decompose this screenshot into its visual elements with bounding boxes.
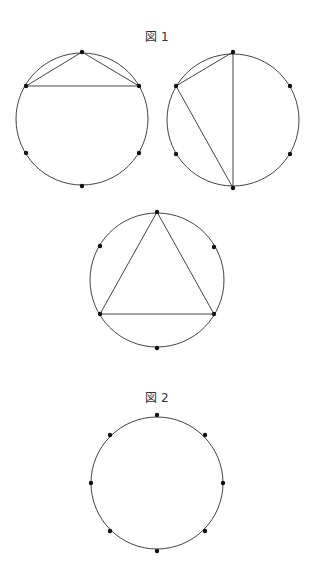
point-dot — [203, 433, 207, 437]
point-dot — [212, 245, 216, 249]
figure-1-label: 図 1 — [145, 30, 168, 44]
point-dot — [231, 50, 235, 54]
point-dot — [288, 152, 292, 156]
fig2-circle — [89, 413, 225, 553]
point-dot — [80, 50, 84, 54]
figure-2-label: 図 2 — [145, 391, 168, 405]
fig1-circle-b — [167, 50, 299, 190]
point-dot — [174, 84, 178, 88]
chord-line — [157, 212, 214, 314]
point-dot — [108, 529, 112, 533]
point-dot — [24, 84, 28, 88]
diagram-canvas: 図 1 図 2 — [0, 0, 311, 587]
chord-line — [82, 52, 139, 86]
point-dot — [98, 312, 102, 316]
fig1-circle-a — [16, 50, 148, 188]
figure-1 — [16, 50, 299, 350]
point-dot — [89, 481, 93, 485]
point-dot — [203, 529, 207, 533]
point-dot — [212, 312, 216, 316]
point-dot — [155, 549, 159, 553]
point-dot — [231, 186, 235, 190]
point-dot — [24, 151, 28, 155]
circle-outline — [90, 213, 224, 347]
point-dot — [137, 151, 141, 155]
point-dot — [80, 184, 84, 188]
chord-line — [100, 212, 157, 314]
point-dot — [98, 244, 102, 248]
chord-line — [176, 52, 233, 86]
point-dot — [108, 433, 112, 437]
point-dot — [155, 413, 159, 417]
point-dot — [155, 346, 159, 350]
point-dot — [288, 84, 292, 88]
fig1-circle-c — [90, 210, 224, 350]
point-dot — [174, 152, 178, 156]
figure-2 — [89, 413, 225, 553]
point-dot — [155, 210, 159, 214]
chord-line — [26, 52, 82, 86]
point-dot — [137, 84, 141, 88]
circle-outline — [16, 53, 148, 185]
point-dot — [221, 481, 225, 485]
chord-line — [176, 86, 233, 188]
